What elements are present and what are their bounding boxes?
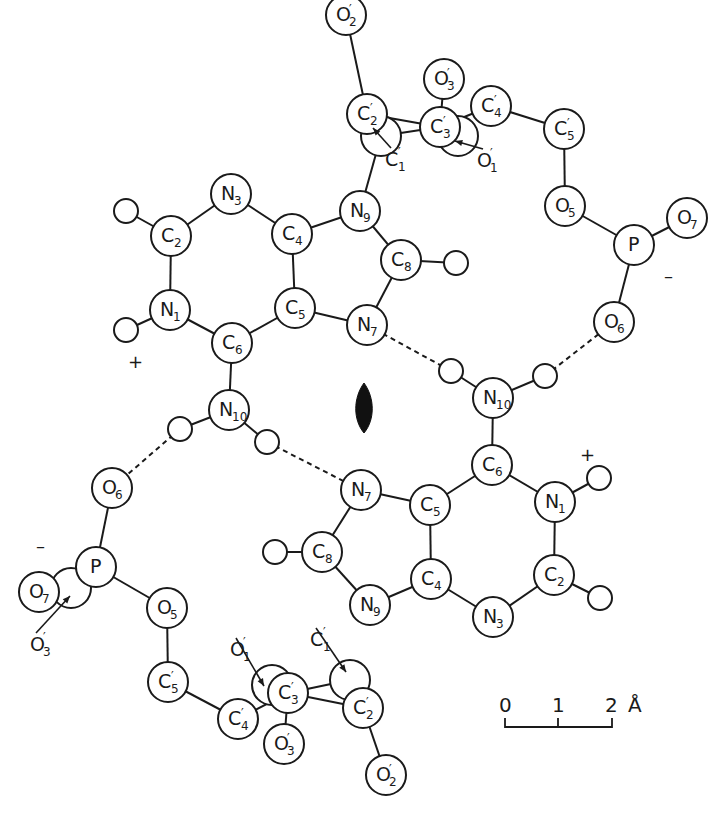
hydrogen-atom (444, 251, 468, 275)
svg-text:′: ′ (447, 66, 450, 80)
lower-atom-o5: O5 (147, 588, 187, 628)
upper-atom-o6: O6 (594, 302, 634, 342)
upper-atom-n7: N7 (347, 305, 387, 345)
svg-text:2: 2 (349, 15, 357, 29)
lower-atom-o3p: O′3 (264, 724, 304, 764)
lower-atom-c3p: C′3 (268, 673, 308, 713)
svg-text:′: ′ (398, 145, 401, 159)
svg-text:6: 6 (617, 322, 625, 336)
scale-tick-1: 1 (552, 693, 565, 717)
svg-text:′: ′ (490, 146, 493, 160)
upper-atom-n9: N9 (340, 191, 380, 231)
svg-text:3: 3 (234, 194, 242, 208)
charge-minus-upper: – (664, 265, 673, 286)
svg-text:3: 3 (291, 693, 299, 707)
upper-atom-c5p: C′5 (544, 109, 584, 149)
svg-text:3: 3 (287, 744, 295, 758)
upper-atom-o2p: O′2 (326, 0, 366, 35)
upper-atom-c4: C4 (272, 214, 312, 254)
svg-text:C: C (161, 224, 174, 246)
svg-text:10: 10 (496, 398, 511, 412)
svg-text:′: ′ (43, 630, 46, 644)
lower-atom-n9: N9 (350, 585, 390, 625)
scale-tick-0: 0 (499, 693, 512, 717)
svg-text:′: ′ (443, 114, 446, 128)
svg-text:1: 1 (558, 502, 566, 516)
svg-text:2: 2 (370, 114, 378, 128)
svg-text:′: ′ (323, 625, 326, 639)
svg-text:7: 7 (370, 325, 378, 339)
lower-atom-p: P (76, 547, 116, 587)
svg-text:C: C (158, 670, 171, 692)
svg-text:C: C (420, 493, 433, 515)
upper-atom-n10: N10 (209, 390, 249, 430)
svg-text:3: 3 (496, 617, 504, 631)
svg-text:′: ′ (291, 680, 294, 694)
svg-text:′: ′ (366, 695, 369, 709)
upper-atom-c4p: C′4 (471, 86, 511, 126)
svg-text:C: C (282, 222, 295, 244)
callout-o1-prime: O′1 (230, 635, 264, 686)
hydrogen-atom (255, 430, 279, 454)
upper-atom-o3p: O′3 (424, 59, 464, 99)
svg-text:C: C (285, 296, 298, 318)
svg-text:1: 1 (173, 310, 181, 324)
svg-text:3: 3 (43, 645, 51, 659)
svg-text:2: 2 (389, 775, 397, 789)
svg-text:6: 6 (235, 343, 243, 357)
hydrogen-atom (114, 318, 138, 342)
upper-atom-o7: O7 (667, 198, 707, 238)
svg-text:C: C (310, 628, 323, 650)
svg-text:1: 1 (398, 160, 406, 174)
svg-text:4: 4 (241, 719, 249, 733)
lower-atom-n10: N10 (473, 378, 513, 418)
svg-text:′: ′ (389, 762, 392, 776)
lower-atom-n1: N1 (535, 482, 575, 522)
svg-text:′: ′ (494, 93, 497, 107)
charge-plus-upper: + (128, 351, 143, 372)
atom-callouts: C′1O′1O′3O′1C′1 (30, 128, 498, 686)
lower-atom-c5: C5 (410, 485, 450, 525)
svg-text:5: 5 (298, 308, 306, 322)
svg-text:C: C (353, 696, 366, 718)
svg-text:P: P (90, 555, 101, 577)
svg-text:2: 2 (174, 236, 182, 250)
figure-canvas: O′2C′2C′3O′3C′4C′5O5PO7O6N9C8N7C4C5N3C2N… (0, 0, 723, 818)
upper-atom-n3: N3 (211, 174, 251, 214)
svg-text:2: 2 (557, 575, 565, 589)
svg-text:7: 7 (690, 218, 698, 232)
svg-text:3: 3 (443, 127, 451, 141)
lower-atom-c4: C4 (411, 559, 451, 599)
upper-atom-c2p: C′2 (347, 94, 387, 134)
svg-text:C: C (554, 117, 567, 139)
charge-minus-lower: – (36, 535, 45, 556)
upper-atom-c6: C6 (212, 323, 252, 363)
svg-text:P: P (628, 233, 639, 255)
svg-text:′: ′ (567, 116, 570, 130)
twofold-axis-icon (356, 383, 373, 433)
svg-text:C: C (430, 115, 443, 137)
upper-atom-c3p: C′3 (420, 107, 460, 147)
svg-text:C: C (481, 94, 494, 116)
svg-text:′: ′ (370, 101, 373, 115)
svg-text:4: 4 (434, 579, 442, 593)
callout-arrow (316, 628, 346, 672)
callout-c1-prime: C′1 (310, 625, 346, 672)
upper-atom-c5: C5 (275, 288, 315, 328)
svg-text:1: 1 (490, 161, 498, 175)
hydrogen-atom (114, 199, 138, 223)
svg-text:8: 8 (404, 260, 412, 274)
svg-text:′: ′ (287, 731, 290, 745)
svg-text:10: 10 (232, 410, 247, 424)
lower-atom-c6: C6 (472, 445, 512, 485)
scale-unit: Å (628, 693, 642, 717)
hydrogen-atom (168, 417, 192, 441)
svg-text:C: C (278, 681, 291, 703)
svg-text:4: 4 (295, 234, 303, 248)
lower-atom-c8: C8 (302, 532, 342, 572)
svg-text:C: C (544, 563, 557, 585)
svg-text:C: C (228, 707, 241, 729)
svg-text:5: 5 (568, 206, 576, 220)
lower-atom-c2: C2 (534, 555, 574, 595)
svg-text:C: C (421, 567, 434, 589)
